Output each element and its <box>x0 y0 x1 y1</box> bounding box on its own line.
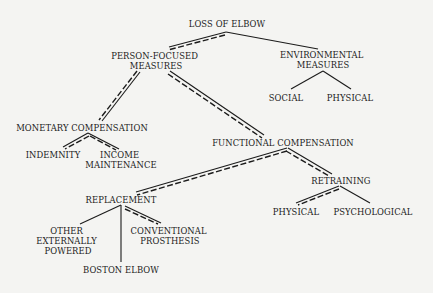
node-conventional-prosthesis: CONVENTIONAL PROSTHESIS <box>131 226 210 246</box>
edge-functional-retraining <box>286 148 332 176</box>
edge-environmental-physical <box>323 71 351 89</box>
node-retraining: RETRAINING <box>311 176 371 186</box>
edge-replacement-conventional <box>125 206 161 224</box>
edge-root-person-focused <box>168 32 226 50</box>
node-psychological: PSYCHOLOGICAL <box>333 207 412 217</box>
node-environmental-physical: PHYSICAL <box>327 93 374 103</box>
node-retraining-physical: PHYSICAL <box>273 207 320 217</box>
edge-root-environmental <box>226 32 318 49</box>
node-environmental-measures: ENVIRONMENTAL MEASURES <box>280 50 366 70</box>
node-loss-of-elbow: LOSS OF ELBOW <box>189 19 266 29</box>
edge-environmental-social <box>291 71 323 89</box>
node-income-maintenance: INCOME MAINTENANCE <box>85 150 156 170</box>
node-other-externally-powered: OTHER EXTERNALLY POWERED <box>36 226 99 256</box>
edge-retraining-psychological <box>340 186 370 203</box>
edge-monetary-income <box>88 133 119 150</box>
edge-person-focused-functional <box>168 71 264 138</box>
edge-retraining-physical <box>296 186 339 205</box>
node-replacement: REPLACEMENT <box>86 195 157 205</box>
decision-tree-diagram: LOSS OF ELBOW PERSON-FOCUSED MEASURES EN… <box>0 0 433 293</box>
edge-replacement-other <box>80 205 121 224</box>
edge-person-focused-monetary <box>99 71 140 121</box>
edge-monetary-indemnity <box>63 133 89 149</box>
node-person-focused-measures: PERSON-FOCUSED MEASURES <box>111 51 201 71</box>
node-boston-elbow: BOSTON ELBOW <box>83 265 159 275</box>
node-monetary-compensation: MONETARY COMPENSATION <box>16 123 148 133</box>
node-indemnity: INDEMNITY <box>26 150 81 160</box>
node-functional-compensation: FUNCTIONAL COMPENSATION <box>212 138 354 148</box>
edge-functional-replacement <box>136 148 287 195</box>
node-social: SOCIAL <box>269 93 304 103</box>
